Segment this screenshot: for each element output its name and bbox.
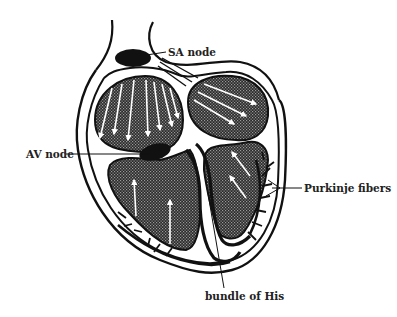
av-node-label: AV node [25, 148, 74, 160]
sa-node-label: SA node [168, 46, 216, 58]
purkinje-fibers-label: Purkinje fibers [304, 182, 391, 194]
bundle-of-his-label: bundle of His [205, 290, 284, 302]
left-atrium [188, 76, 268, 141]
heart-conduction-diagram: SA node AV node Purkinje fibers bundle o… [0, 0, 397, 317]
sa-node [115, 49, 151, 67]
right-atrium [95, 76, 183, 152]
